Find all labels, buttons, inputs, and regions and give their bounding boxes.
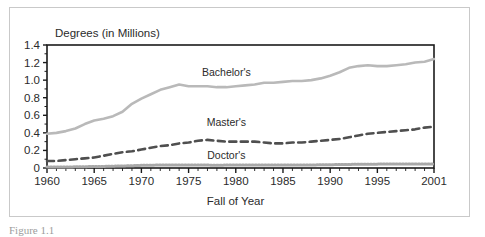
x-tick-label-1975: 1975 <box>176 175 202 187</box>
y-tick-label-0.4: 0.4 <box>24 127 41 139</box>
series-label-bachelors: Bachelor's <box>202 66 251 78</box>
y-axis-title: Degrees (in Millions) <box>55 27 160 39</box>
y-tick-label-1.2: 1.2 <box>24 57 40 69</box>
x-tick-label-1965: 1965 <box>81 175 107 187</box>
x-tick-label-1970: 1970 <box>129 175 155 187</box>
y-tick-label-1.0: 1.0 <box>24 74 40 86</box>
series-line-doctors <box>47 164 434 167</box>
series-label-doctors: Doctor's <box>207 149 245 161</box>
y-tick-label-0.8: 0.8 <box>24 92 40 104</box>
x-tick-label-1995: 1995 <box>365 175 391 187</box>
y-tick-label-0: 0 <box>34 162 40 174</box>
x-tick-label-1960: 1960 <box>34 175 60 187</box>
x-tick-label-1990: 1990 <box>317 175 343 187</box>
figure-caption-fragment: Figure 1.1 <box>9 224 309 237</box>
chart-svg: 00.20.40.60.81.01.21.4196019651970197519… <box>0 0 485 237</box>
series-label-masters: Master's <box>207 116 246 128</box>
x-tick-label-1980: 1980 <box>223 175 249 187</box>
x-tick-label-2001: 2001 <box>421 175 447 187</box>
degrees-line-chart: 00.20.40.60.81.01.21.4196019651970197519… <box>0 0 485 237</box>
x-axis-title: Fall of Year <box>207 195 265 207</box>
x-tick-label-1985: 1985 <box>270 175 296 187</box>
y-tick-label-0.6: 0.6 <box>24 109 40 121</box>
figure-root: 00.20.40.60.81.01.21.4196019651970197519… <box>0 0 485 237</box>
y-tick-label-1.4: 1.4 <box>24 39 41 51</box>
y-tick-label-0.2: 0.2 <box>24 144 40 156</box>
